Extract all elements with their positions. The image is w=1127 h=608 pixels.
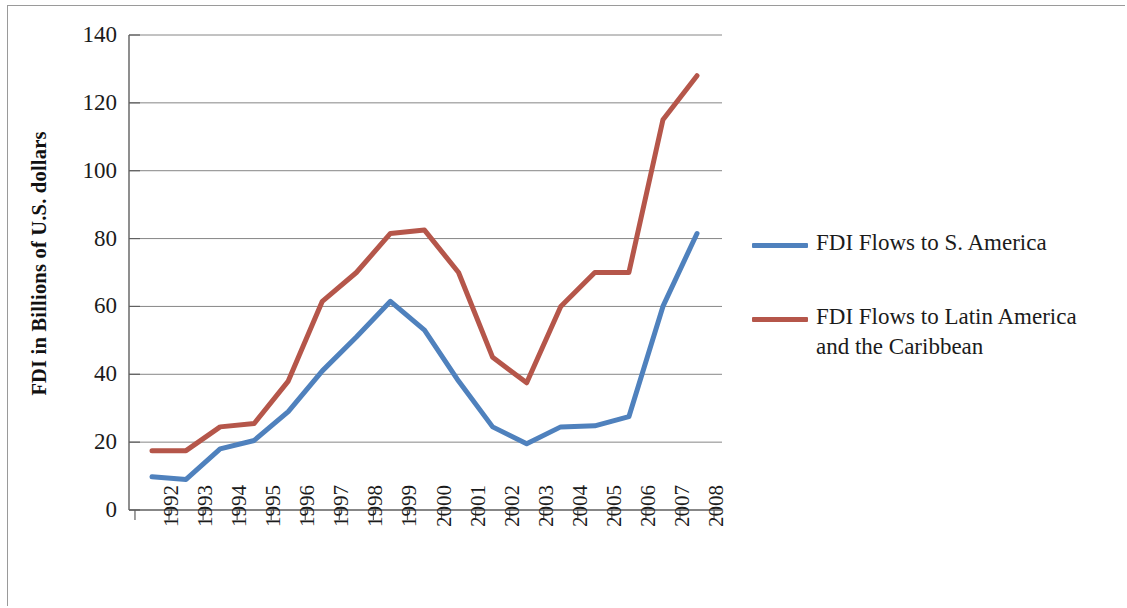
series-line-2: [152, 76, 697, 451]
y-tick-label: 40: [55, 362, 117, 385]
line-chart: FDI in Billions of U.S. dollars 02040608…: [0, 0, 1127, 608]
legend-color-swatch: [752, 317, 808, 322]
x-tick-label: 1997: [331, 485, 352, 527]
x-tick-label: 1992: [161, 485, 182, 527]
y-axis-title: FDI in Billions of U.S. dollars: [28, 99, 51, 429]
x-tick-label: 2001: [468, 485, 489, 527]
y-tick-label: 140: [55, 23, 117, 46]
legend-item[interactable]: FDI Flows to Latin America and the Carib…: [752, 302, 1112, 362]
x-tick-label: 2006: [638, 485, 659, 527]
y-tick-label: 0: [55, 498, 117, 521]
legend-label: FDI Flows to S. America: [816, 228, 1047, 258]
x-tick-label: 2007: [672, 485, 693, 527]
x-tick-label: 2002: [502, 485, 523, 527]
x-tick-label: 1996: [297, 485, 318, 527]
x-tick-label: 2008: [706, 485, 727, 527]
legend-color-swatch: [752, 243, 808, 248]
data-series-group: [152, 76, 697, 480]
x-tick-label: 1994: [229, 485, 250, 527]
y-tick-label: 120: [55, 91, 117, 114]
y-tick-label: 80: [55, 227, 117, 250]
y-tick-label: 60: [55, 294, 117, 317]
y-tick-label: 100: [55, 159, 117, 182]
legend-item[interactable]: FDI Flows to S. America: [752, 228, 1112, 258]
x-tick-label: 1998: [365, 485, 386, 527]
chart-page: FDI in Billions of U.S. dollars 02040608…: [0, 0, 1127, 608]
x-tick-label: 2003: [536, 485, 557, 527]
y-tick-label: 20: [55, 430, 117, 453]
x-tick-label: 2000: [434, 485, 455, 527]
x-tick-label: 2005: [604, 485, 625, 527]
gridlines: [129, 35, 722, 442]
x-tick-label: 1993: [195, 485, 216, 527]
axis-lines: [129, 35, 722, 510]
x-tick-label: 1999: [399, 485, 420, 527]
axis-tick-marks: [129, 35, 714, 520]
chart-legend: FDI Flows to S. AmericaFDI Flows to Lati…: [752, 228, 1112, 406]
x-tick-label: 2004: [570, 485, 591, 527]
legend-label: FDI Flows to Latin America and the Carib…: [816, 302, 1106, 362]
x-tick-label: 1995: [263, 485, 284, 527]
